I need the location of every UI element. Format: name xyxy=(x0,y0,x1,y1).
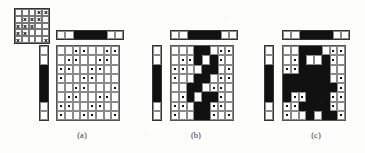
panel-a-cell-r0-c3 xyxy=(80,46,88,55)
x-mark-template-grid xyxy=(14,8,50,44)
panel-c-vbar-cell-3 xyxy=(265,74,273,83)
panel-b-cell-r5-c2 xyxy=(187,92,195,101)
panel-a-vbar-cell-4 xyxy=(40,83,48,92)
panel-b-cell-r6-c0 xyxy=(171,102,179,111)
panel-c-horizontal-marginal-bar xyxy=(282,30,350,40)
panel-c-cell-r4-c4 xyxy=(314,83,322,92)
panel-a-cell-r5-c3 xyxy=(80,92,88,101)
panel-c-vbar-cell-6 xyxy=(265,102,273,111)
panel-b-cell-r5-c7 xyxy=(225,92,233,101)
panel-b-cell-r0-c1 xyxy=(179,46,187,55)
panel-c-cell-r0-c1 xyxy=(291,46,299,55)
panel-b-cell-r1-c7 xyxy=(225,55,233,64)
panel-a-cell-r1-c7 xyxy=(111,55,119,64)
panel-b-cell-r7-c1 xyxy=(179,111,187,120)
panel-a-cell-r0-c5 xyxy=(96,46,104,55)
panel-a-cell-r0-c1 xyxy=(65,46,73,55)
panel-b-cell-r4-c7 xyxy=(225,83,233,92)
panel-b-main-grid xyxy=(170,45,234,121)
panel-a-cell-r4-c3 xyxy=(80,83,88,92)
x-template-cell-r3-c3 xyxy=(35,29,42,36)
panel-b-cell-r7-c5 xyxy=(210,111,218,120)
panel-c-cell-r3-c3 xyxy=(306,74,314,83)
panel-b-cell-r3-c7 xyxy=(225,74,233,83)
panel-c-cell-r2-c2 xyxy=(299,65,307,74)
panel-b-cell-r1-c6 xyxy=(218,55,226,64)
panel-b-cell-r1-c4 xyxy=(202,55,210,64)
panel-a-cell-r6-c4 xyxy=(88,102,96,111)
panel-a-cell-r7-c1 xyxy=(65,111,73,120)
panel-b-vbar-cell-7 xyxy=(153,111,161,120)
panel-c-cell-r4-c7 xyxy=(337,83,345,92)
panel-c-cell-r0-c2 xyxy=(299,46,307,55)
panel-b-cell-r7-c2 xyxy=(187,111,195,120)
panel-b-cell-r4-c5 xyxy=(210,83,218,92)
x-template-cell-r2-c1 xyxy=(22,23,29,30)
panel-c-cell-r2-c3 xyxy=(306,65,314,74)
panel-a-cell-r1-c5 xyxy=(96,55,104,64)
panel-c-cell-r5-c0 xyxy=(283,92,291,101)
panel-b-cell-r7-c0 xyxy=(171,111,179,120)
panel-a-main-grid xyxy=(56,45,120,121)
panel-c-vbar-cell-5 xyxy=(265,92,273,101)
panel-c-cell-r4-c3 xyxy=(306,83,314,92)
panel-a-hbar-cell-5 xyxy=(98,31,106,39)
panel-b-cell-r0-c0 xyxy=(171,46,179,55)
panel-c-cell-r4-c2 xyxy=(299,83,307,92)
panel-b-hbar-cell-1 xyxy=(179,31,187,39)
x-template-cell-r2-c0 xyxy=(15,23,22,30)
panel-b-cell-r0-c6 xyxy=(218,46,226,55)
panel-b-hbar-cell-0 xyxy=(171,31,179,39)
panel-c-cell-r2-c4 xyxy=(314,65,322,74)
panel-b-cell-r7-c3 xyxy=(194,111,202,120)
panel-c-cell-r0-c6 xyxy=(330,46,338,55)
panel-c-cell-r7-c2 xyxy=(299,111,307,120)
panel-a-cell-r0-c7 xyxy=(111,46,119,55)
panel-a-cell-r7-c7 xyxy=(111,111,119,120)
panel-b-cell-r1-c2 xyxy=(187,55,195,64)
panel-a-cell-r4-c0 xyxy=(57,83,65,92)
panel-b-hbar-cell-6 xyxy=(221,31,229,39)
panel-c-cell-r5-c6 xyxy=(330,92,338,101)
panel-b-cell-r5-c6 xyxy=(218,92,226,101)
panel-b-cell-r5-c3 xyxy=(194,92,202,101)
panel-a-cell-r3-c3 xyxy=(80,74,88,83)
panel-b-cell-r2-c2 xyxy=(187,65,195,74)
panel-b-cell-r2-c7 xyxy=(225,65,233,74)
x-template-cell-r4-c3 xyxy=(35,36,42,43)
panel-a-vbar-cell-2 xyxy=(40,65,48,74)
x-template-cell-r2-c2 xyxy=(29,23,36,30)
panel-c-cell-r6-c3 xyxy=(306,102,314,111)
panel-a-hbar-cell-4 xyxy=(90,31,98,39)
panel-a-hbar-cell-3 xyxy=(82,31,90,39)
panel-b-caption: (b) xyxy=(176,130,216,140)
panel-b-hbar-cell-3 xyxy=(196,31,204,39)
panel-c-cell-r1-c0 xyxy=(283,55,291,64)
panel-a-vertical-marginal-bar xyxy=(39,45,49,121)
panel-c-hbar-cell-7 xyxy=(341,31,349,39)
panel-b-cell-r6-c5 xyxy=(210,102,218,111)
panel-a-hbar-cell-2 xyxy=(74,31,82,39)
panel-a-cell-r2-c2 xyxy=(73,65,81,74)
x-template-cell-r1-c4 xyxy=(42,16,49,23)
panel-c-cell-r3-c0 xyxy=(283,74,291,83)
panel-a-cell-r5-c7 xyxy=(111,92,119,101)
panel-a-vbar-cell-6 xyxy=(40,102,48,111)
panel-b-vbar-cell-3 xyxy=(153,74,161,83)
panel-c-hbar-cell-5 xyxy=(324,31,332,39)
panel-b-cell-r1-c5 xyxy=(210,55,218,64)
x-template-cell-r0-c3 xyxy=(35,9,42,16)
panel-b-cell-r7-c7 xyxy=(225,111,233,120)
panel-c-cell-r3-c7 xyxy=(337,74,345,83)
panel-c-vbar-cell-1 xyxy=(265,55,273,64)
panel-c-cell-r4-c6 xyxy=(330,83,338,92)
panel-a-vbar-cell-0 xyxy=(40,46,48,55)
panel-c-cell-r1-c7 xyxy=(337,55,345,64)
x-template-cell-r2-c3 xyxy=(35,23,42,30)
panel-b-cell-r5-c0 xyxy=(171,92,179,101)
figure-root: (a) (b) (c) xyxy=(0,0,365,153)
panel-a-cell-r7-c6 xyxy=(104,111,112,120)
panel-b-cell-r3-c2 xyxy=(187,74,195,83)
panel-b-vbar-cell-6 xyxy=(153,102,161,111)
panel-c-cell-r3-c1 xyxy=(291,74,299,83)
